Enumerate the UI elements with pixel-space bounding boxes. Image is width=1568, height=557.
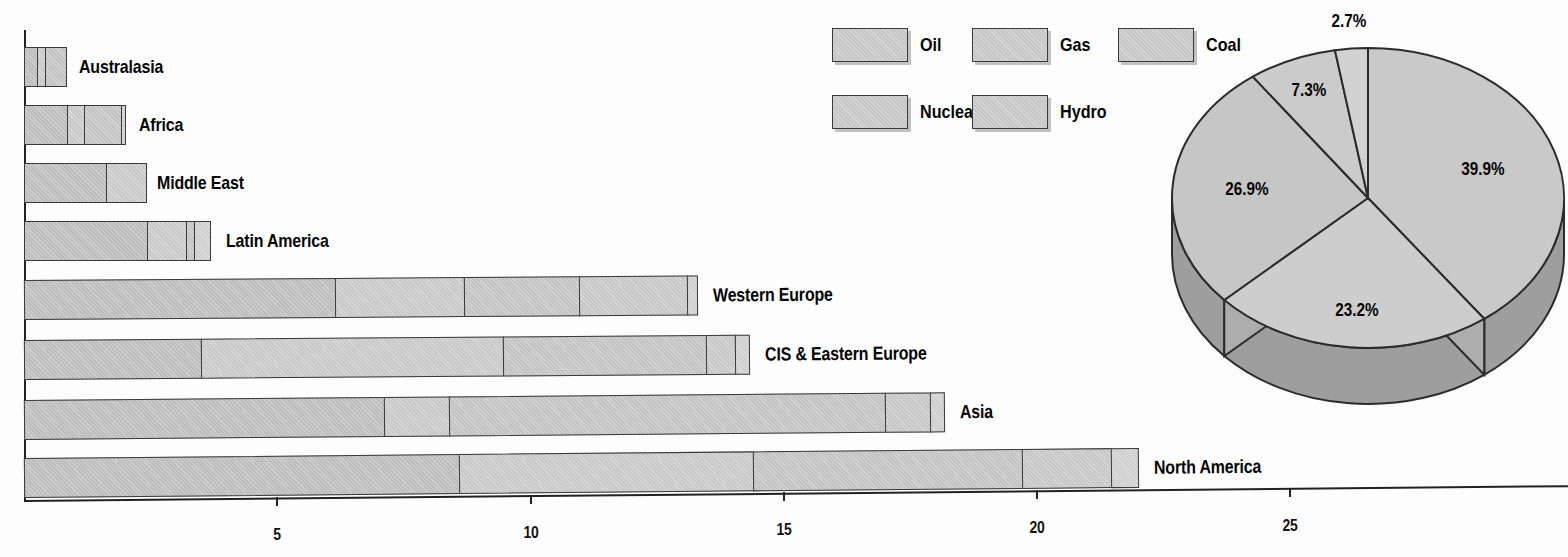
bar-segment-hydro[interactable] bbox=[735, 335, 750, 375]
bar-label: Africa bbox=[139, 114, 183, 136]
pie-label-oil: 39.9% bbox=[1462, 158, 1505, 179]
x-tick-label-5: 5 bbox=[274, 525, 281, 545]
x-tick-20 bbox=[1036, 490, 1038, 499]
bar-row[interactable]: Australasia bbox=[24, 47, 66, 87]
bar-segment-nuclear[interactable] bbox=[579, 276, 689, 317]
legend-item-hydro[interactable]: Hydro bbox=[972, 95, 1115, 129]
bar-segment-gas[interactable] bbox=[201, 336, 505, 378]
bar-row[interactable]: Middle East bbox=[24, 163, 145, 203]
bar-segment-gas[interactable] bbox=[335, 277, 465, 318]
bar-segment-coal[interactable] bbox=[503, 335, 708, 377]
x-tick-15 bbox=[783, 492, 785, 501]
legend-label-oil: Oil bbox=[920, 34, 942, 56]
bar-segment-hydro[interactable] bbox=[930, 392, 946, 432]
bar-segment-nuclear[interactable] bbox=[1022, 448, 1113, 489]
pie-label-coal: 26.9% bbox=[1225, 178, 1268, 199]
bar-label: Australasia bbox=[79, 56, 163, 78]
bar-label: North America bbox=[1154, 456, 1261, 479]
pie-label-nuclear: 7.3% bbox=[1291, 80, 1326, 101]
bar-row[interactable]: CIS & Eastern Europe bbox=[24, 335, 749, 380]
bar-label: Western Europe bbox=[713, 284, 833, 307]
x-tick-10 bbox=[530, 495, 532, 504]
bar-segment-oil[interactable] bbox=[24, 397, 386, 440]
bar-segment-oil[interactable] bbox=[24, 163, 107, 203]
bar-segment-coal[interactable] bbox=[753, 449, 1024, 491]
legend-item-gas[interactable]: Gas bbox=[972, 28, 1096, 62]
bar-segment-coal[interactable] bbox=[449, 393, 886, 437]
x-tick-5 bbox=[276, 497, 278, 506]
legend-label-nuclear: Nuclear bbox=[920, 101, 979, 123]
bar-segment-gas[interactable] bbox=[106, 163, 147, 203]
x-tick-label-25: 25 bbox=[1283, 516, 1298, 536]
bar-segment-oil[interactable] bbox=[24, 278, 337, 320]
bar-row[interactable]: Western Europe bbox=[24, 276, 697, 320]
bar-row[interactable]: Latin America bbox=[24, 221, 210, 261]
chart-canvas: 510152025 AustralasiaAfricaMiddle EastLa… bbox=[0, 0, 1568, 557]
legend-swatch-oil bbox=[832, 28, 908, 62]
legend-swatch-hydro bbox=[972, 95, 1048, 129]
bar-label: Asia bbox=[960, 401, 993, 423]
bar-segment-coal[interactable] bbox=[45, 47, 67, 87]
bar-segment-gas[interactable] bbox=[459, 451, 755, 494]
x-tick-label-10: 10 bbox=[523, 523, 538, 543]
bar-label: Latin America bbox=[226, 230, 329, 252]
bar-row[interactable]: Asia bbox=[24, 392, 944, 440]
bar-segment-gas[interactable] bbox=[67, 105, 86, 145]
bar-segment-hydro[interactable] bbox=[194, 221, 211, 261]
bar-segment-oil[interactable] bbox=[24, 221, 148, 261]
x-tick-label-15: 15 bbox=[776, 520, 791, 540]
legend-label-hydro: Hydro bbox=[1060, 101, 1107, 123]
bar-segment-hydro[interactable] bbox=[121, 105, 126, 145]
bar-segment-hydro[interactable] bbox=[1111, 448, 1139, 488]
bar-segment-hydro[interactable] bbox=[687, 276, 698, 316]
legend-swatch-nuclear bbox=[832, 95, 908, 129]
pie-chart-svg bbox=[1146, 2, 1568, 412]
bar-segment-oil[interactable] bbox=[24, 454, 461, 498]
bar-segment-gas[interactable] bbox=[147, 221, 188, 261]
bar-segment-oil[interactable] bbox=[24, 339, 203, 380]
bar-segment-coal[interactable] bbox=[84, 105, 122, 145]
bar-segment-nuclear[interactable] bbox=[884, 392, 931, 432]
x-tick-label-20: 20 bbox=[1030, 518, 1045, 538]
x-tick-25 bbox=[1289, 488, 1291, 497]
bar-label: CIS & Eastern Europe bbox=[765, 342, 927, 365]
pie-label-gas: 23.2% bbox=[1335, 299, 1378, 320]
bar-row[interactable]: Africa bbox=[24, 105, 124, 145]
bar-segment-oil[interactable] bbox=[24, 105, 68, 145]
legend-item-oil[interactable]: Oil bbox=[832, 28, 945, 62]
legend-item-nuclear[interactable]: Nuclear bbox=[832, 95, 990, 129]
pie-label-hydro: 2.7% bbox=[1332, 10, 1367, 31]
legend-swatch-gas bbox=[972, 28, 1048, 62]
bar-segment-coal[interactable] bbox=[464, 276, 581, 317]
legend-label-gas: Gas bbox=[1060, 34, 1091, 56]
pie-chart: 39.9%23.2%26.9%7.3%2.7% bbox=[1146, 2, 1568, 412]
bar-segment-gas[interactable] bbox=[384, 396, 451, 437]
bar-label: Middle East bbox=[157, 172, 244, 194]
bar-segment-nuclear[interactable] bbox=[706, 335, 736, 375]
